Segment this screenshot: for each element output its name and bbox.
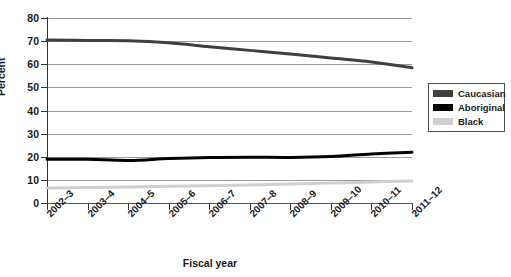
legend-label: Aboriginal	[458, 103, 505, 113]
series-line-caucasian	[47, 40, 412, 68]
y-axis-title: Percent	[0, 57, 7, 96]
y-tick-label-wrap-0: 0	[0, 198, 39, 208]
y-tick-label-10: 10	[17, 175, 39, 185]
y-tick-label-30: 30	[17, 129, 39, 139]
x-tick-label-9: 2011–12	[410, 185, 444, 219]
legend-item-black[interactable]: Black	[433, 115, 501, 128]
legend-swatch-icon-black	[433, 118, 453, 125]
chart-title	[0, 0, 511, 5]
y-tick-label-wrap-40: 40	[0, 106, 39, 116]
x-axis-title: Fiscal year	[0, 258, 420, 269]
y-tick-label-40: 40	[17, 106, 39, 116]
y-tick-label-wrap-70: 70	[0, 36, 39, 46]
y-tick-label-50: 50	[17, 82, 39, 92]
y-tick-label-wrap-20: 20	[0, 152, 39, 162]
chart-legend: CaucasianAboriginalBlack	[428, 83, 505, 132]
y-tick-label-0: 0	[17, 198, 39, 208]
series-line-aboriginal	[47, 152, 412, 160]
y-tick-label-70: 70	[17, 36, 39, 46]
y-tick-label-80: 80	[17, 13, 39, 23]
legend-swatch-icon-caucasian	[433, 90, 453, 97]
legend-label: Caucasian	[458, 89, 506, 99]
legend-label: Black	[458, 117, 483, 127]
series-layer	[47, 18, 412, 203]
legend-swatch-icon-aboriginal	[433, 104, 453, 111]
y-tick-label-wrap-10: 10	[0, 175, 39, 185]
legend-item-aboriginal[interactable]: Aboriginal	[433, 101, 501, 114]
y-tick-label-wrap-30: 30	[0, 129, 39, 139]
legend-item-caucasian[interactable]: Caucasian	[433, 87, 501, 100]
y-tick-label-20: 20	[17, 152, 39, 162]
y-tick-label-60: 60	[17, 59, 39, 69]
chart-figure: 01020304050607080 2002–32003–42004–52005…	[0, 0, 511, 277]
series-line-black	[47, 181, 412, 188]
y-tick-label-wrap-80: 80	[0, 13, 39, 23]
